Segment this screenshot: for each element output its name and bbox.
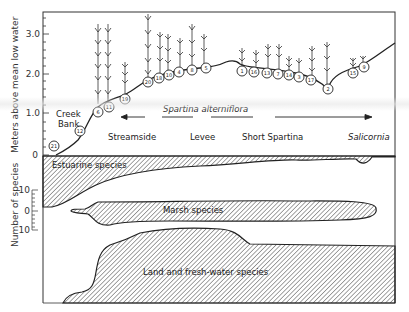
zone-creek: Creek — [56, 109, 81, 119]
station-1: 1 — [237, 66, 247, 76]
svg-text:2: 2 — [326, 86, 329, 92]
svg-text:15: 15 — [350, 70, 356, 76]
bottom-ytick-10-top: 10 — [19, 185, 31, 195]
svg-text:13: 13 — [264, 70, 270, 76]
station-7: 7 — [273, 69, 283, 79]
station-5: 5 — [201, 63, 211, 73]
ytick-2: 2.0 — [26, 69, 41, 79]
marsh-species-area — [71, 201, 376, 225]
station-6: 6 — [93, 107, 103, 117]
svg-text:3: 3 — [297, 74, 300, 80]
marsh-label: Marsh species — [163, 205, 224, 215]
svg-text:11: 11 — [106, 104, 112, 110]
station-10: 10 — [164, 70, 174, 80]
station-8: 8 — [187, 65, 197, 75]
station-19: 19 — [120, 94, 130, 104]
marsh-profile-diagram: 0 1.0 2.0 3.0 Meters above mean low wate… — [0, 0, 409, 312]
svg-text:21: 21 — [51, 143, 57, 149]
bottom-ylabel: Number of species — [10, 163, 20, 247]
svg-text:8: 8 — [190, 67, 193, 73]
svg-text:18: 18 — [156, 75, 162, 81]
zone-short-spartina: Short Spartina — [242, 132, 303, 142]
land-freshwater-label: Land and fresh-water species — [143, 267, 269, 277]
range-arrows — [121, 115, 372, 120]
zone-bank: Bank — [58, 119, 79, 129]
station-16: 16 — [249, 67, 259, 77]
land-freshwater-species-area — [63, 228, 395, 303]
ytick-1: 1.0 — [26, 108, 41, 118]
station-11: 11 — [104, 102, 114, 112]
station-4: 4 — [174, 67, 184, 77]
station-2: 2 — [323, 84, 333, 94]
svg-text:7: 7 — [276, 71, 279, 77]
estuarine-label: Estuarine species — [52, 160, 127, 170]
svg-text:10: 10 — [166, 72, 172, 78]
svg-text:5: 5 — [204, 65, 207, 71]
top-panel-frame — [43, 12, 395, 156]
station-18: 18 — [154, 73, 164, 83]
bottom-ytick-10-bottom: 10 — [19, 225, 31, 235]
bottom-ytick-0: 0 — [24, 206, 30, 216]
svg-text:19: 19 — [122, 96, 128, 102]
station-17: 17 — [306, 75, 316, 85]
svg-text:16: 16 — [251, 69, 257, 75]
station-9: 9 — [359, 62, 369, 72]
bottom-y-ticks — [32, 190, 38, 230]
svg-text:6: 6 — [96, 109, 99, 115]
svg-text:1: 1 — [240, 68, 243, 74]
station-15: 15 — [348, 68, 358, 78]
station-21: 21 — [49, 141, 59, 151]
ytick-3: 3.0 — [26, 29, 41, 39]
svg-text:14: 14 — [286, 72, 292, 78]
svg-text:17: 17 — [308, 77, 314, 83]
ytick-0: 0 — [32, 150, 38, 160]
station-13: 13 — [262, 68, 272, 78]
station-14: 14 — [284, 70, 294, 80]
zone-streamside: Streamside — [108, 132, 156, 142]
zone-levee: Levee — [190, 132, 215, 142]
svg-text:20: 20 — [145, 79, 151, 85]
svg-text:9: 9 — [362, 64, 365, 70]
svg-text:4: 4 — [177, 69, 180, 75]
species-spartina: Spartina alterniflora — [163, 104, 248, 114]
marsh-profile-curve — [56, 43, 395, 155]
top-ylabel: Meters above mean low water — [10, 16, 20, 153]
station-3: 3 — [294, 72, 304, 82]
zone-salicornia: Salicornia — [348, 132, 390, 142]
station-20: 20 — [143, 77, 153, 87]
top-y-axis — [43, 18, 49, 155]
